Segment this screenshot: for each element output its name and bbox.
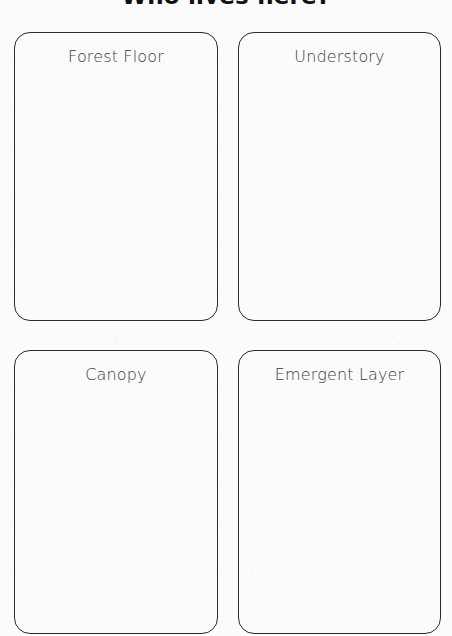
- card-forest-floor[interactable]: Forest Floor: [14, 32, 218, 321]
- card-canopy[interactable]: Canopy: [14, 350, 218, 634]
- card-label-forest-floor: Forest Floor: [15, 48, 217, 66]
- page-title: Who lives here?: [0, 0, 452, 9]
- card-label-understory: Understory: [239, 48, 440, 66]
- card-emergent-layer[interactable]: Emergent Layer: [238, 350, 441, 634]
- card-label-canopy: Canopy: [15, 366, 217, 384]
- card-understory[interactable]: Understory: [238, 32, 441, 321]
- worksheet-page: Who lives here? Forest Floor Understory …: [0, 0, 452, 636]
- card-label-emergent-layer: Emergent Layer: [239, 366, 440, 384]
- page-title-container: Who lives here?: [0, 0, 452, 11]
